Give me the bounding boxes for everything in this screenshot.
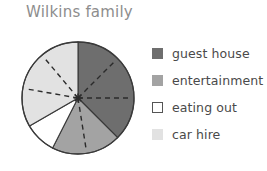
pie-svg [0,22,150,171]
pie-center-mark [74,94,83,103]
legend-swatch-icon [152,75,163,86]
legend-item-car-hire[interactable]: car hire [152,121,267,148]
legend-item-label: guest house [172,46,250,61]
legend-item-eating-out[interactable]: eating out [152,94,267,121]
legend-swatch-icon [152,129,163,140]
pie-chart-figure: Wilkins family guest houseentertainmente… [0,0,267,171]
legend-item-label: entertainment [172,73,263,88]
legend-item-entertainment[interactable]: entertainment [152,67,267,94]
legend-swatch-icon [152,48,163,59]
legend-swatch-icon [152,102,163,113]
legend-item-guest-house[interactable]: guest house [152,40,267,67]
chart-title: Wilkins family [26,3,133,21]
pie-chart-plot [0,22,150,171]
chart-legend: guest houseentertainmenteating outcar hi… [152,40,267,148]
legend-item-label: eating out [172,100,237,115]
legend-item-label: car hire [172,127,220,142]
